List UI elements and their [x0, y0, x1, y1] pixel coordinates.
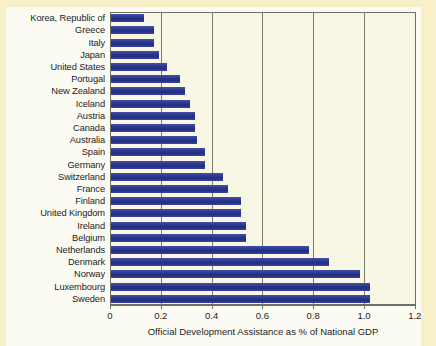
category-label: Greece: [0, 25, 105, 35]
bar: [111, 283, 370, 291]
x-tick-mark: [364, 305, 365, 309]
category-label: United Kingdom: [0, 208, 105, 218]
chart-figure: Korea, Republic ofGreeceItalyJapanUnited…: [0, 0, 436, 346]
bar-rows: Korea, Republic ofGreeceItalyJapanUnited…: [0, 12, 436, 305]
category-label: Sweden: [0, 294, 105, 304]
bar: [111, 87, 185, 95]
bar-chart: Korea, Republic ofGreeceItalyJapanUnited…: [0, 0, 436, 346]
bar-row: United Kingdom: [0, 207, 436, 219]
x-tick-mark: [161, 305, 162, 309]
category-label: Spain: [0, 147, 105, 157]
bar: [111, 148, 205, 156]
bar-row: Italy: [0, 36, 436, 48]
bar-row: Denmark: [0, 256, 436, 268]
bar: [111, 258, 329, 266]
bar-row: Canada: [0, 122, 436, 134]
category-label: Belgium: [0, 233, 105, 243]
category-label: Japan: [0, 50, 105, 60]
x-tick-label: 0.2: [141, 310, 181, 321]
bar-row: Austria: [0, 110, 436, 122]
bar: [111, 100, 190, 108]
x-tick-label: 0: [90, 310, 130, 321]
bar: [111, 39, 154, 47]
bar-row: Portugal: [0, 73, 436, 85]
category-label: Canada: [0, 123, 105, 133]
category-label: Finland: [0, 196, 105, 206]
category-label: France: [0, 184, 105, 194]
bar: [111, 51, 159, 59]
bar-row: Australia: [0, 134, 436, 146]
category-label: Switzerland: [0, 172, 105, 182]
category-label: New Zealand: [0, 86, 105, 96]
x-tick-label: 1.2: [395, 310, 435, 321]
bar: [111, 75, 180, 83]
bar: [111, 209, 241, 217]
category-label: Norway: [0, 269, 105, 279]
bar: [111, 197, 241, 205]
x-tick-label: 0.8: [293, 310, 333, 321]
bar: [111, 112, 195, 120]
x-tick-mark: [262, 305, 263, 309]
x-tick-mark: [415, 305, 416, 309]
category-label: Portugal: [0, 74, 105, 84]
bar: [111, 234, 246, 242]
bar-row: France: [0, 183, 436, 195]
bar-row: Spain: [0, 146, 436, 158]
category-label: Australia: [0, 135, 105, 145]
bar-row: Netherlands: [0, 244, 436, 256]
bar: [111, 63, 167, 71]
x-axis-title: Official Development Assistance as % of …: [110, 326, 416, 337]
category-label: Ireland: [0, 221, 105, 231]
bar-row: New Zealand: [0, 85, 436, 97]
bar-row: Greece: [0, 24, 436, 36]
category-label: Netherlands: [0, 245, 105, 255]
category-label: Germany: [0, 160, 105, 170]
bar: [111, 161, 205, 169]
category-label: Denmark: [0, 257, 105, 267]
category-label: Iceland: [0, 99, 105, 109]
category-label: Luxembourg: [0, 282, 105, 292]
bar: [111, 136, 197, 144]
bar: [111, 124, 195, 132]
x-tick-label: 0.4: [192, 310, 232, 321]
x-tick-label: 1.0: [344, 310, 384, 321]
bar-row: Japan: [0, 49, 436, 61]
x-tick-label: 0.6: [242, 310, 282, 321]
x-tick-mark: [313, 305, 314, 309]
category-label: Austria: [0, 111, 105, 121]
bar-row: Belgium: [0, 232, 436, 244]
bar: [111, 26, 154, 34]
bar-row: Korea, Republic of: [0, 12, 436, 24]
category-label: United States: [0, 62, 105, 72]
bar: [111, 185, 228, 193]
bar: [111, 270, 360, 278]
category-label: Italy: [0, 38, 105, 48]
bar-row: Germany: [0, 159, 436, 171]
bar: [111, 222, 246, 230]
x-tick-mark: [212, 305, 213, 309]
bar-row: Norway: [0, 268, 436, 280]
bar: [111, 246, 309, 254]
bar-row: Ireland: [0, 220, 436, 232]
bar-row: Sweden: [0, 293, 436, 305]
bar-row: Switzerland: [0, 171, 436, 183]
bar: [111, 295, 370, 303]
category-label: Korea, Republic of: [0, 13, 105, 23]
bar: [111, 14, 144, 22]
bar-row: Finland: [0, 195, 436, 207]
x-tick-mark: [110, 305, 111, 309]
bar-row: Luxembourg: [0, 281, 436, 293]
bar-row: Iceland: [0, 97, 436, 109]
bar-row: United States: [0, 61, 436, 73]
bar: [111, 173, 223, 181]
